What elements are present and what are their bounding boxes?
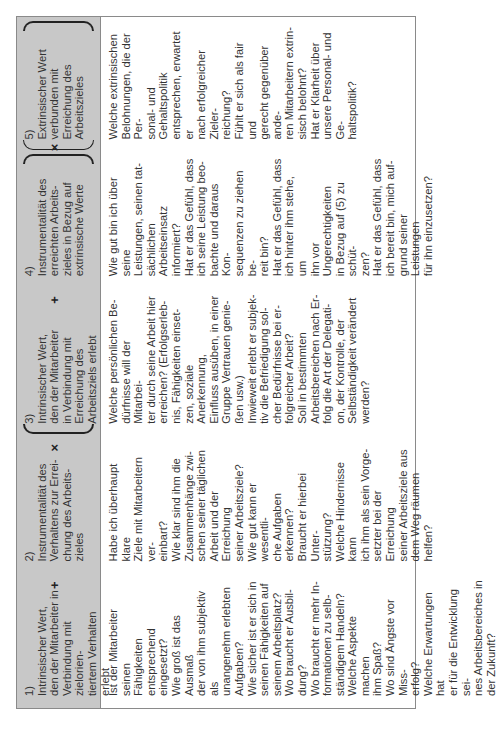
rotated-table-container: 1) Intrinsischer Wert, den der Mitarbeit… — [16, 16, 416, 709]
header-text-3: 3) Intrinsischer Wert, den der Mitarbeit… — [17, 288, 100, 436]
body-cell-4: Wie gut bin ich über seine Leistungen, s… — [101, 152, 497, 289]
body-row: Ist der Mitarbeiter seinen Fähigkeiten e… — [101, 17, 497, 708]
body-cell-5: Welche extrinsischen Belohnungen, die de… — [101, 17, 497, 152]
body-cell-2: Habe ich überhaupt klare Ziele mit Mitar… — [101, 436, 497, 574]
header-cell-2: 2) Instrumentalität des Verhaltens zur E… — [17, 436, 100, 574]
header-text-2: 2) Instrumentalität des Verhaltens zur E… — [17, 436, 100, 574]
close-parenthesis-icon — [23, 154, 94, 164]
plus-operator: + — [47, 296, 62, 304]
expectancy-value-table: 1) Intrinsischer Wert, den der Mitarbeit… — [16, 16, 416, 709]
header-text-5: 5) Extrinsischer Wert verbunden mit Erre… — [17, 17, 100, 152]
header-row: 1) Intrinsischer Wert, den der Mitarbeit… — [17, 17, 101, 708]
plus-operator: + — [47, 581, 62, 589]
close-parenthesis-icon — [23, 21, 94, 31]
header-text-4: 4) Instrumentalität des erreichten Arbei… — [17, 152, 100, 289]
open-parenthesis-icon — [23, 424, 94, 434]
header-cell-1: 1) Intrinsischer Wert, den der Mitarbeit… — [17, 573, 100, 708]
body-cell-1: Ist der Mitarbeiter seinen Fähigkeiten e… — [101, 573, 497, 708]
open-parenthesis-icon — [23, 140, 94, 150]
body-cell-3: Welche persönlichen Be- dürfnisse will d… — [101, 288, 497, 436]
header-cell-5: 5) Extrinsischer Wert verbunden mit Erre… — [17, 17, 100, 152]
header-cell-3: 3) Intrinsischer Wert, den der Mitarbeit… — [17, 288, 100, 436]
header-text-1: 1) Intrinsischer Wert, den der Mitarbeit… — [17, 573, 100, 708]
multiply-operator: × — [47, 444, 62, 452]
header-cell-4: 4) Instrumentalität des erreichten Arbei… — [17, 152, 100, 289]
